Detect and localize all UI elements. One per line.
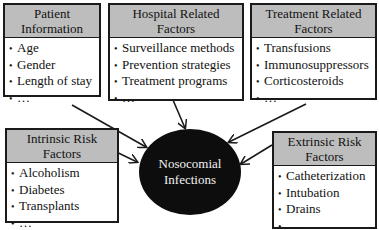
item-list: •Age •Gender •Length of stay •… xyxy=(5,38,99,106)
list-item: •Transfusions xyxy=(256,40,375,57)
list-item: •Catheterization xyxy=(278,168,375,185)
intrinsic-risk-factors-box: Intrinsic Risk Factors •Alcoholism •Diab… xyxy=(5,128,119,223)
hospital-related-factors-box: Hospital Related Factors •Surveillance m… xyxy=(108,3,244,101)
list-item: •Age xyxy=(9,40,99,57)
bullet-icon: • xyxy=(9,74,17,90)
list-item: •… xyxy=(114,90,242,107)
arrow-extrinsic-to-center xyxy=(241,145,272,164)
box-title: Hospital Related xyxy=(112,6,240,21)
list-item: •Immunosuppressors xyxy=(256,57,375,74)
bullet-icon: • xyxy=(114,74,122,90)
list-item: •Corticosteroids xyxy=(256,73,375,90)
bullet-icon: • xyxy=(256,41,264,57)
list-item: •Length of stay xyxy=(9,73,99,90)
list-item: •Transplants xyxy=(11,198,117,215)
box-title: Treatment Related xyxy=(254,6,373,21)
bullet-icon: • xyxy=(256,74,264,90)
box-title: Patient xyxy=(7,6,97,21)
bullet-icon: • xyxy=(278,186,286,202)
box-title: Factors xyxy=(112,21,240,36)
bullet-icon: • xyxy=(256,91,264,107)
center-label: Nosocomial Infections xyxy=(140,156,240,188)
treatment-related-factors-box: Treatment Related Factors •Transfusions … xyxy=(250,3,377,100)
bullet-icon: • xyxy=(9,91,17,107)
list-item: •Diabetes xyxy=(11,182,117,199)
bullet-icon: • xyxy=(114,91,122,107)
bullet-icon: • xyxy=(278,169,286,185)
box-header: Intrinsic Risk Factors xyxy=(7,130,117,163)
list-item: •Surveillance methods xyxy=(114,40,242,57)
box-title: Intrinsic Risk xyxy=(9,131,115,146)
box-title: Information xyxy=(7,21,97,36)
bullet-icon: • xyxy=(9,41,17,57)
box-title: Factors xyxy=(254,21,373,36)
list-item: •Treatment programs xyxy=(114,73,242,90)
list-item: •Gender xyxy=(9,57,99,74)
list-item: •Prevention strategies xyxy=(114,57,242,74)
box-header: Extrinsic Risk Factors xyxy=(274,133,375,166)
list-item: •… xyxy=(11,215,117,230)
patient-information-box: Patient Information •Age •Gender •Length… xyxy=(3,3,101,97)
extrinsic-risk-factors-box: Extrinsic Risk Factors •Catheterization … xyxy=(272,131,377,229)
bullet-icon: • xyxy=(11,166,19,182)
bullet-icon: • xyxy=(114,58,122,74)
box-title: Factors xyxy=(276,149,373,164)
bullet-icon: • xyxy=(11,183,19,199)
list-item: •Drains xyxy=(278,201,375,218)
list-item: •… xyxy=(9,90,99,107)
list-item: •Alcoholism xyxy=(11,165,117,182)
list-item: •Intubation xyxy=(278,185,375,202)
box-title: Extrinsic Risk xyxy=(276,134,373,149)
list-item: •… xyxy=(256,90,375,107)
center-label-line2: Infections xyxy=(140,172,240,188)
bullet-icon: • xyxy=(9,58,17,74)
item-list: •Transfusions •Immunosuppressors •Cortic… xyxy=(252,38,375,106)
bullet-icon: • xyxy=(11,199,19,215)
item-list: •Surveillance methods •Prevention strate… xyxy=(110,38,242,106)
bullet-icon: • xyxy=(256,58,264,74)
bullet-icon: • xyxy=(278,202,286,218)
list-item: •… xyxy=(278,218,375,230)
bullet-icon: • xyxy=(11,216,19,230)
bullet-icon: • xyxy=(114,41,122,57)
box-title: Factors xyxy=(9,146,115,161)
center-label-line1: Nosocomial xyxy=(140,156,240,172)
bullet-icon: • xyxy=(278,219,286,230)
box-header: Hospital Related Factors xyxy=(110,5,242,38)
box-header: Treatment Related Factors xyxy=(252,5,375,38)
box-header: Patient Information xyxy=(5,5,99,38)
item-list: •Catheterization •Intubation •Drains •… xyxy=(274,166,375,229)
item-list: •Alcoholism •Diabetes •Transplants •… xyxy=(7,163,117,229)
